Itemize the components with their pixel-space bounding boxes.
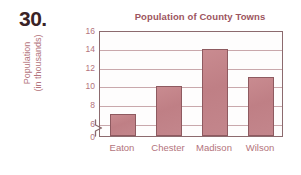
- x-tick-label: Wilson: [237, 142, 283, 153]
- plot-area: [99, 31, 283, 137]
- y-tick-label: 0: [79, 133, 95, 142]
- y-tick-label: 14: [79, 45, 95, 54]
- y-tick-label: 12: [79, 64, 95, 73]
- bar: [248, 77, 274, 137]
- gridline: [100, 50, 282, 51]
- y-tick-label: 10: [79, 82, 95, 91]
- bar: [202, 49, 228, 136]
- y-tick-label: 8: [79, 101, 95, 110]
- bar: [156, 86, 182, 136]
- chart-title: Population of County Towns: [110, 11, 290, 22]
- y-axis-title: Population (in thousands): [22, 8, 44, 118]
- y-axis-title-line2: (in thousands): [33, 8, 44, 118]
- y-tick-label: 16: [79, 27, 95, 36]
- axis-break-icon: [94, 118, 106, 138]
- bar-chart-figure: Population of County Towns Population (i…: [0, 0, 301, 175]
- gridline: [100, 69, 282, 70]
- x-tick-label: Eaton: [99, 142, 145, 153]
- y-tick-label: 6: [79, 120, 95, 129]
- y-axis-title-line1: Population: [22, 42, 32, 85]
- x-tick-label: Chester: [145, 142, 191, 153]
- x-tick-label: Madison: [191, 142, 237, 153]
- bar: [110, 114, 136, 136]
